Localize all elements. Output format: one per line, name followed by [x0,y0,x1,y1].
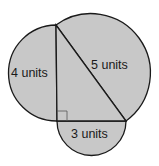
label-hypotenuse: 5 units [91,58,128,72]
diagram-svg: 4 units 5 units 3 units [0,0,159,166]
label-left-side: 4 units [11,66,48,80]
label-bottom-side: 3 units [71,127,108,141]
pythagorean-semicircles-diagram: 4 units 5 units 3 units [0,0,159,166]
